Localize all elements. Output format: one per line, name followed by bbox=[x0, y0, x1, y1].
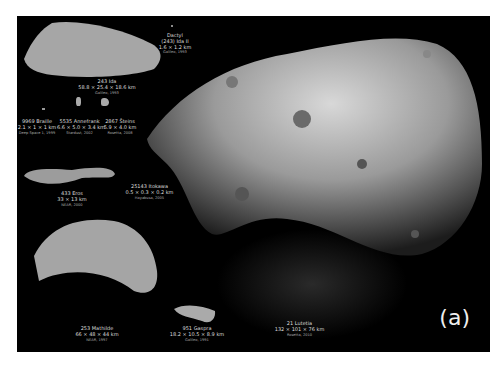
label-gaspra-credit: Galileo, 1991 bbox=[157, 338, 237, 342]
label-braille-credit: Deep Space 1, 1999 bbox=[17, 131, 57, 135]
panel-tag: (a) bbox=[439, 305, 470, 330]
label-itokawa: 25143 Itokawa 0.5 × 0.3 × 0.2 km Hayabus… bbox=[122, 184, 177, 200]
label-annefrank-credit: Stardust, 2002 bbox=[57, 131, 102, 135]
label-braille-dims: 2.1 × 1 × 1 km bbox=[17, 125, 57, 131]
label-mathilde: 253 Mathilde 66 × 48 × 44 km NEAR, 1997 bbox=[57, 326, 137, 342]
asteroid-image-eros bbox=[22, 164, 117, 189]
label-dactyl: Dactyl (243) Ida II 1.6 × 1.2 km Galileo… bbox=[155, 33, 195, 54]
label-annefrank-dims: 6.6 × 5.0 × 3.4 km bbox=[57, 125, 102, 131]
asteroid-composite-figure: 243 Ida 58.8 × 25.4 × 18.6 km Galileo, 1… bbox=[17, 16, 490, 352]
label-itokawa-credit: Hayabusa, 2005 bbox=[122, 196, 177, 200]
label-itokawa-dims: 0.5 × 0.3 × 0.2 km bbox=[122, 190, 177, 196]
label-steins-dims: 5.9 × 4.0 km bbox=[100, 125, 140, 131]
label-ida: 243 Ida 58.8 × 25.4 × 18.6 km Galileo, 1… bbox=[57, 79, 157, 95]
label-steins-credit: Rosetta, 2008 bbox=[100, 131, 140, 135]
label-lutetia-credit: Rosetta, 2010 bbox=[257, 333, 342, 337]
label-lutetia: 21 Lutetia 132 × 101 × 76 km Rosetta, 20… bbox=[257, 321, 342, 337]
label-steins: 2867 Šteins 5.9 × 4.0 km Rosetta, 2008 bbox=[100, 119, 140, 135]
label-dactyl-credit: Galileo, 1993 bbox=[155, 50, 195, 54]
asteroid-image-ida bbox=[22, 19, 167, 79]
label-ida-credit: Galileo, 1993 bbox=[57, 91, 157, 95]
asteroid-image-lutetia bbox=[137, 24, 490, 344]
label-braille: 9969 Braille 2.1 × 1 × 1 km Deep Space 1… bbox=[17, 119, 57, 135]
asteroid-image-annefrank bbox=[76, 97, 81, 106]
asteroid-image-steins bbox=[101, 98, 109, 106]
asteroid-image-dactyl bbox=[171, 25, 173, 27]
label-mathilde-credit: NEAR, 1997 bbox=[57, 338, 137, 342]
asteroid-image-mathilde bbox=[29, 211, 159, 301]
label-eros: 433 Eros 33 × 13 km NEAR, 2000 bbox=[37, 191, 107, 207]
asteroid-image-braille bbox=[42, 108, 45, 110]
label-eros-credit: NEAR, 2000 bbox=[37, 203, 107, 207]
label-gaspra: 951 Gaspra 18.2 × 10.5 × 8.9 km Galileo,… bbox=[157, 326, 237, 342]
label-annefrank: 5535 Annefrank 6.6 × 5.0 × 3.4 km Stardu… bbox=[57, 119, 102, 135]
